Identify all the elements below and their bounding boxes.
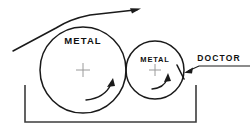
web-direction-arrowhead <box>130 8 141 13</box>
doctor-label: DOCTOR <box>197 53 240 63</box>
large-roll-rotation-arrowhead <box>107 78 115 87</box>
small-roll-label: METAL <box>140 55 169 64</box>
doctor-blade-stroke <box>177 65 184 79</box>
doctor-leader-arrowhead <box>184 68 193 74</box>
small-roll-center-cross <box>149 64 161 76</box>
small-roll-rotation-arrowhead <box>164 73 171 82</box>
large-roll-center-cross <box>76 63 90 77</box>
large-roll-label: METAL <box>64 35 102 46</box>
diagram-canvas: METAL METAL DOCTOR <box>0 0 251 132</box>
doctor-leader-line <box>188 66 250 71</box>
roll-coater-diagram: METAL METAL DOCTOR <box>0 0 251 132</box>
large-roll-rotation-arc <box>86 84 111 100</box>
